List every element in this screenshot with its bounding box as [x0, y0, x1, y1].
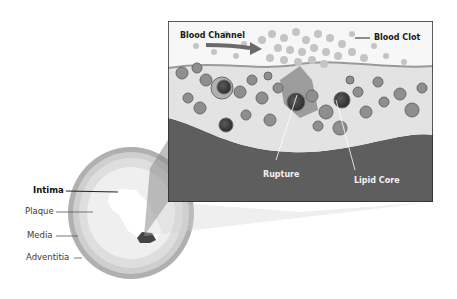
label-media: Media — [27, 230, 53, 240]
magnification-cone-lower — [144, 202, 433, 236]
label-blood-clot: Blood Clot — [374, 33, 420, 42]
label-plaque: Plaque — [25, 206, 54, 216]
label-lipid-core: Lipid Core — [354, 176, 400, 185]
inset-illustration — [168, 21, 433, 202]
label-rupture: Rupture — [263, 170, 299, 179]
label-blood-channel: Blood Channel — [180, 31, 245, 40]
label-intima: Intima — [33, 185, 64, 195]
diagram-stage: Intima Plaque Media Adventitia Blood Cha… — [0, 0, 457, 299]
label-adventitia: Adventitia — [26, 252, 69, 262]
